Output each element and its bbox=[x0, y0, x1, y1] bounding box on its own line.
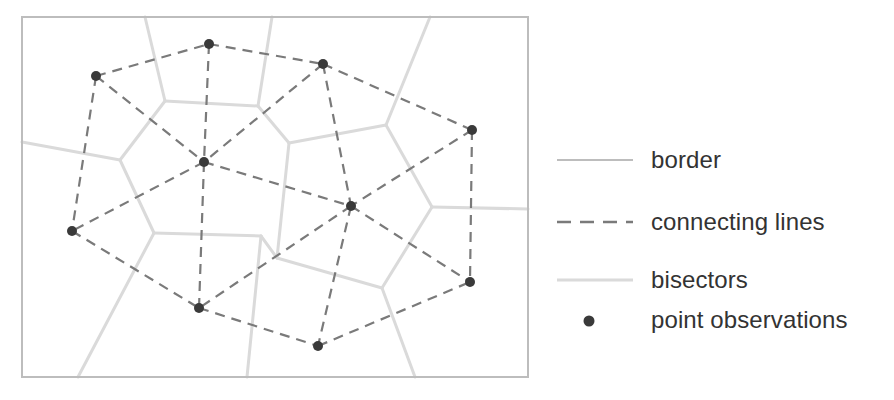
connecting-line bbox=[199, 206, 351, 308]
connecting-lines bbox=[72, 44, 472, 346]
bisector-line bbox=[258, 106, 289, 143]
bisector-line bbox=[382, 207, 432, 288]
voronoi-diagram bbox=[0, 0, 894, 400]
legend-label-bisectors: bisectors bbox=[651, 266, 748, 294]
point-observation bbox=[91, 71, 101, 81]
point-observation bbox=[313, 341, 323, 351]
bisector-line bbox=[247, 236, 261, 377]
legend-item-point-observations: point observations bbox=[545, 300, 885, 340]
legend-label-connecting-lines: connecting lines bbox=[651, 208, 825, 236]
bisector-line bbox=[277, 258, 382, 288]
legend-label-point-observations: point observations bbox=[651, 306, 848, 334]
border-line-icon bbox=[545, 140, 645, 180]
point-observation bbox=[318, 59, 328, 69]
connecting-line bbox=[72, 162, 204, 231]
point-observation bbox=[467, 125, 477, 135]
point-observation bbox=[194, 303, 204, 313]
point-observation bbox=[199, 157, 209, 167]
connecting-line bbox=[199, 308, 318, 346]
bisector-line bbox=[432, 207, 528, 209]
point-observation bbox=[346, 201, 356, 211]
bisector-line bbox=[145, 17, 165, 101]
legend-label-border: border bbox=[651, 146, 721, 174]
legend-item-bisectors: bisectors bbox=[545, 260, 885, 300]
connecting-line bbox=[351, 206, 470, 282]
bisector-line-icon bbox=[545, 260, 645, 300]
bisector-line bbox=[386, 125, 432, 207]
connecting-line bbox=[96, 76, 204, 162]
point-observation bbox=[204, 39, 214, 49]
bisector-line bbox=[78, 233, 154, 377]
bisector-line bbox=[154, 233, 261, 236]
bisector-line bbox=[277, 143, 289, 258]
bisector-line bbox=[165, 101, 258, 106]
bisector-line bbox=[261, 236, 277, 258]
bisector-line bbox=[258, 17, 272, 106]
border-rectangle bbox=[22, 17, 528, 377]
bisector-line bbox=[22, 142, 120, 160]
dashed-line-icon bbox=[545, 202, 645, 242]
connecting-line bbox=[470, 130, 472, 282]
connecting-line bbox=[204, 162, 351, 206]
legend-item-connecting-lines: connecting lines bbox=[545, 202, 885, 242]
point-observation bbox=[465, 277, 475, 287]
connecting-line bbox=[72, 231, 199, 308]
bisector-lines bbox=[22, 17, 528, 377]
connecting-line bbox=[351, 130, 472, 206]
point-observation bbox=[67, 226, 77, 236]
connecting-line bbox=[318, 282, 470, 346]
point-dot-icon bbox=[545, 300, 645, 340]
bisector-line bbox=[120, 101, 165, 160]
legend-item-border: border bbox=[545, 140, 885, 180]
bisector-line bbox=[382, 288, 415, 377]
connecting-line bbox=[318, 206, 351, 346]
